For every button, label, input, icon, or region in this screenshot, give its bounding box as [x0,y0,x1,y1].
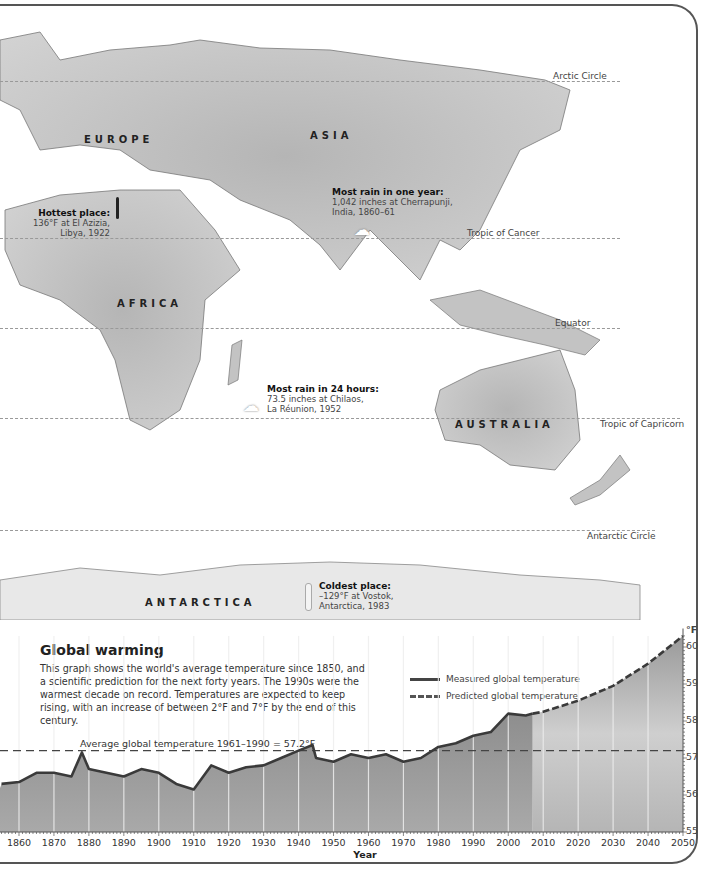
x-tick-label: 1870 [42,837,66,848]
x-tick-label: 2020 [566,837,590,848]
callout-hottest-line2: Libya, 1922 [60,228,110,238]
tropic-of-capricorn-label: Tropic of Capricorn [600,419,684,429]
thermometer-hot-icon [116,197,119,219]
callout-hottest-line1: 136°F at El Azizia, [33,218,110,228]
x-tick-label: 1960 [356,837,380,848]
antarctic-circle-line [0,530,655,531]
x-tick-label: 1890 [112,837,136,848]
x-tick-label: 1980 [426,837,450,848]
x-tick-label: 1990 [461,837,485,848]
arctic-circle-line [0,81,620,82]
x-tick-label: 1900 [147,837,171,848]
x-tick-label: 2050 [671,837,695,848]
antarctic-circle-label: Antarctic Circle [587,531,655,541]
average-temperature-annotation: Average global temperature 1961–1990 = 5… [80,738,315,749]
callout-rain-24h: Most rain in 24 hours: 73.5 inches at Ch… [267,384,379,414]
x-tick-label: 1860 [7,837,31,848]
y-tick-label: 59 [686,677,698,688]
callout-hottest: Hottest place: 136°F at El Azizia, Libya… [10,208,110,238]
callout-coldest: Coldest place: –129°F at Vostok, Antarct… [319,581,394,611]
x-tick-label: 1950 [321,837,345,848]
world-climate-map: Arctic Circle Tropic of Cancer Equator T… [0,0,705,620]
region-europe: EUROPE [84,134,153,145]
callout-coldest-line1: –129°F at Vostok, [319,591,394,601]
x-tick-label: 2040 [636,837,660,848]
region-asia: ASIA [310,130,352,141]
y-axis-unit: °F [686,624,697,635]
equator-line [0,328,620,329]
y-tick-label: 56 [686,788,698,799]
rain-cloud-icon: ☁ [243,396,259,415]
tropic-of-cancer-line [0,238,620,239]
y-tick-label: 57 [686,751,698,762]
callout-coldest-title: Coldest place: [319,581,394,591]
region-antarctica: ANTARCTICA [145,597,256,608]
x-tick-label: 1920 [217,837,241,848]
x-tick-label: 1970 [391,837,415,848]
region-australia: AUSTRALIA [455,419,554,430]
global-warming-chart: Global warming This graph shows the worl… [0,620,705,873]
tropic-of-cancer-label: Tropic of Cancer [467,228,539,238]
callout-coldest-line2: Antarctica, 1983 [319,601,389,611]
x-tick-label: 2030 [601,837,625,848]
tropic-of-capricorn-line [0,418,680,419]
rain-cloud-icon: ☁ [354,220,370,239]
y-tick-label: 60 [686,640,698,651]
region-africa: AFRICA [117,298,182,309]
x-tick-label: 1940 [286,837,310,848]
x-tick-label: 1880 [77,837,101,848]
callout-rain-year-line2: India, 1860–61 [332,207,395,217]
x-tick-label: 1910 [182,837,206,848]
map-landmasses [0,0,705,620]
callout-rain-year: Most rain in one year: 1,042 inches at C… [332,187,453,217]
equator-label: Equator [555,318,590,328]
callout-rain-year-line1: 1,042 inches at Cherrapunji, [332,197,453,207]
y-tick-label: 58 [686,714,698,725]
x-tick-label: 2000 [496,837,520,848]
callout-rain-24h-line1: 73.5 inches at Chilaos, [267,394,364,404]
x-axis-title: Year [353,849,377,860]
x-tick-label: 2010 [531,837,555,848]
x-tick-label: 1930 [252,837,276,848]
callout-hottest-title: Hottest place: [10,208,110,218]
callout-rain-year-title: Most rain in one year: [332,187,453,197]
arctic-circle-label: Arctic Circle [553,71,607,81]
callout-rain-24h-line2: La Réunion, 1952 [267,404,341,414]
y-tick-label: 55 [686,825,698,836]
thermometer-cold-icon [305,583,312,611]
callout-rain-24h-title: Most rain in 24 hours: [267,384,379,394]
